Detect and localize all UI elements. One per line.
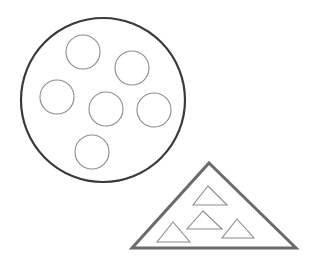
small-circle [75, 135, 109, 169]
shapes-diagram [0, 0, 311, 262]
small-triangle [193, 186, 227, 205]
small-circle [66, 35, 100, 69]
small-circle [137, 93, 171, 127]
large-circle [21, 18, 185, 182]
small-circle [115, 51, 149, 85]
triangle-group [132, 163, 296, 248]
small-circle [40, 80, 74, 114]
circle-group [21, 18, 185, 182]
small-triangle [222, 219, 254, 238]
small-triangle [187, 211, 222, 229]
small-triangle [157, 222, 190, 242]
small-circle [89, 92, 123, 126]
